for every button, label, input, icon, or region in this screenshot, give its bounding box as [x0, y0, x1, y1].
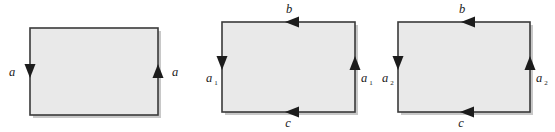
figure-2-left-label: a — [206, 71, 212, 85]
figure-1-right-label: a — [172, 65, 178, 79]
figure-2-right-arrow — [350, 56, 361, 70]
figure-3-bottom-arrow — [460, 107, 474, 118]
figure-1-left-label: a — [9, 65, 15, 79]
figure-2-right-label-subscript: 1 — [369, 79, 373, 87]
figure-2-rectangle — [222, 22, 355, 112]
figure-3-bottom-label: c — [458, 116, 464, 130]
figure-2-right-label-group: a 1 — [361, 71, 373, 87]
figure-2-top-arrow — [285, 17, 299, 28]
figure-1-left-arrow — [25, 64, 36, 78]
figure-3: b c a 2 a 2 — [0, 0, 555, 132]
figure-1-rectangle — [30, 28, 158, 115]
figure-2-bottom-label: c — [285, 116, 291, 130]
figure-3-rectangle — [398, 22, 530, 112]
figure-3-left-label-group: a 2 — [382, 71, 394, 87]
figure-3-right-label: a — [536, 71, 542, 85]
figure-3-left-arrow — [393, 56, 404, 70]
figure-2-drop-shadow — [225, 25, 358, 115]
figure-1-right-arrow — [153, 64, 164, 78]
figure-3-right-label-group: a 2 — [536, 71, 548, 87]
figure-2-bottom-arrow — [285, 107, 299, 118]
figure-3-drop-shadow — [401, 25, 533, 115]
figure-3-top-label: b — [459, 2, 465, 16]
figure-2: b c a 1 a 1 — [0, 0, 555, 132]
figure-1: a a — [0, 0, 555, 132]
figure-board: a a b c a — [0, 0, 555, 132]
figure-2-left-arrow — [217, 56, 228, 70]
figure-3-right-label-subscript: 2 — [544, 79, 548, 87]
figure-3-top-arrow — [461, 17, 475, 28]
figure-3-left-label: a — [382, 71, 388, 85]
figure-3-right-arrow — [525, 56, 536, 70]
figure-3-left-label-subscript: 2 — [390, 79, 394, 87]
figure-2-left-label-group: a 1 — [206, 71, 218, 87]
figure-2-left-label-subscript: 1 — [214, 79, 218, 87]
figure-1-drop-shadow — [33, 31, 161, 118]
figure-2-right-label: a — [361, 71, 367, 85]
figure-2-top-label: b — [286, 2, 292, 16]
